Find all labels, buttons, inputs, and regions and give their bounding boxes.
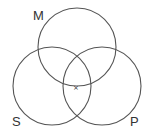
label-s: S: [12, 114, 21, 129]
venn-diagram: M S P ×: [0, 0, 150, 136]
label-p: P: [130, 114, 139, 129]
label-m: M: [33, 8, 44, 23]
x-marker: ×: [73, 84, 79, 92]
